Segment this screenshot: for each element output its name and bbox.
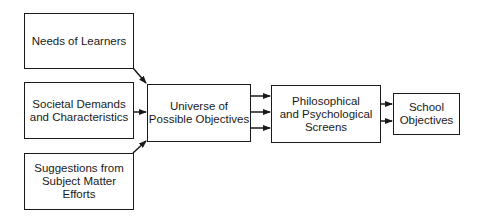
node-universe-of-objectives: Universe of Possible Objectives [147, 84, 251, 142]
node-label: Philosophical and Psychological Screens [280, 95, 373, 134]
node-needs-of-learners: Needs of Learners [24, 13, 134, 69]
node-societal-demands: Societal Demands and Characteristics [24, 82, 134, 139]
node-label: Societal Demands and Characteristics [30, 98, 128, 124]
node-label: Needs of Learners [32, 35, 127, 48]
arrow-needs-to-universe [133, 68, 146, 83]
node-label: Suggestions from Subject Matter Efforts [34, 162, 124, 201]
arrow-suggestions-to-universe [133, 141, 146, 153]
node-label: School Objectives [400, 101, 454, 127]
node-philosophical-screens: Philosophical and Psychological Screens [271, 85, 381, 143]
node-label: Universe of Possible Objectives [149, 100, 249, 126]
node-subject-matter-suggestions: Suggestions from Subject Matter Efforts [24, 153, 134, 210]
node-school-objectives: School Objectives [393, 93, 460, 135]
